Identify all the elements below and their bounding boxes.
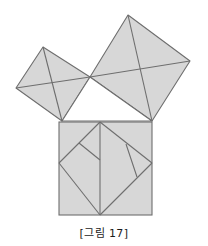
leg-square-bottom-body: [59, 122, 152, 215]
leg-square-bottom: [59, 122, 152, 215]
figure-caption: [그림 17]: [0, 224, 208, 240]
figure-container: [그림 17]: [0, 0, 208, 246]
pythagorean-dissection-diagram: [0, 0, 208, 224]
